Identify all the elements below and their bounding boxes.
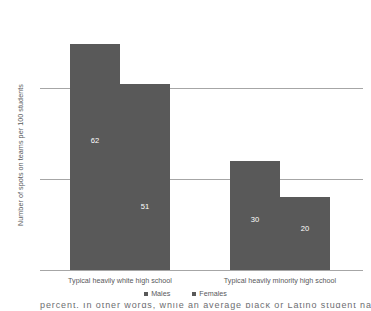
legend-label-females: Females — [199, 289, 227, 298]
bar-chart: Number of spots on teams per 100 student… — [0, 0, 371, 311]
legend-swatch-males-icon — [144, 292, 148, 296]
bar-value-group1-females: 51 — [120, 202, 170, 211]
bar-group2-males[interactable]: 30 — [230, 161, 280, 270]
legend-label-males: Males — [151, 289, 170, 298]
bar-group1-males[interactable]: 62 — [70, 44, 120, 270]
legend-swatch-females-icon — [192, 292, 196, 296]
bar-value-group2-males: 30 — [230, 215, 280, 224]
y-axis-title: Number of spots on teams per 100 student… — [14, 35, 28, 275]
bar-group1-females[interactable]: 51 — [120, 84, 170, 270]
legend-item-males[interactable]: Males — [144, 289, 170, 298]
bar-group2-females[interactable]: 20 — [280, 197, 330, 270]
category-label-group2: Typical heavily minority high school — [180, 276, 371, 285]
plot-area: 62 51 30 20 — [40, 20, 363, 270]
bar-value-group1-males: 62 — [70, 136, 120, 145]
gridline-0 — [40, 270, 363, 271]
legend-item-females[interactable]: Females — [192, 289, 227, 298]
cropped-caption: percent. In other words, while an averag… — [0, 303, 371, 311]
cropped-caption-text: percent. In other words, while an averag… — [0, 303, 371, 311]
chart-legend: Males Females — [0, 289, 371, 298]
bar-value-group2-females: 20 — [280, 224, 330, 233]
